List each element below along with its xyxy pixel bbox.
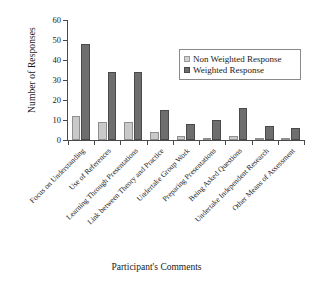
bar [134, 72, 143, 140]
bar [255, 138, 264, 140]
bar-group [94, 20, 120, 140]
bar [229, 136, 238, 140]
legend-swatch-icon-non-weighted [184, 56, 190, 62]
bar-group [252, 20, 278, 140]
bar [281, 138, 290, 140]
bar-group [120, 20, 146, 140]
bar-group [68, 20, 94, 140]
y-tick-label-50: 50 [53, 36, 62, 44]
bar [212, 120, 221, 140]
bar-group [225, 20, 251, 140]
x-axis-category-labels: Focus on UnderstandingUse of ReferencesL… [0, 141, 313, 256]
legend-item-non-weighted: Non Weighted Response [184, 54, 296, 64]
bar [186, 124, 195, 140]
y-tick-label-60: 60 [53, 16, 62, 24]
bar [124, 122, 133, 140]
bar [160, 110, 169, 140]
bar [150, 132, 159, 140]
chart-figure: 0102030405060 Number of Responses Partic… [0, 0, 313, 285]
legend-label-non-weighted: Non Weighted Response [193, 54, 282, 64]
legend-label-weighted: Weighted Response [193, 65, 264, 75]
bar [81, 44, 90, 140]
y-axis-title: Number of Responses [27, 15, 37, 125]
bar [291, 128, 300, 140]
bar [239, 108, 248, 140]
legend-item-weighted: Weighted Response [184, 65, 296, 75]
y-tick-label-30: 30 [53, 76, 62, 84]
y-tick-label-20: 20 [53, 96, 62, 104]
bar [98, 122, 107, 140]
bar [108, 72, 117, 140]
y-tick-label-10: 10 [53, 116, 62, 124]
bar [72, 116, 81, 140]
bar-group [278, 20, 304, 140]
bar [177, 136, 186, 140]
bar [203, 138, 212, 140]
y-tick-label-40: 40 [53, 56, 62, 64]
bar-group [147, 20, 173, 140]
plot-area [68, 20, 304, 140]
bar-group [173, 20, 199, 140]
bar-group [199, 20, 225, 140]
bar [265, 126, 274, 140]
legend-swatch-icon-weighted [184, 67, 190, 73]
chart-legend: Non Weighted Response Weighted Response [179, 49, 301, 80]
